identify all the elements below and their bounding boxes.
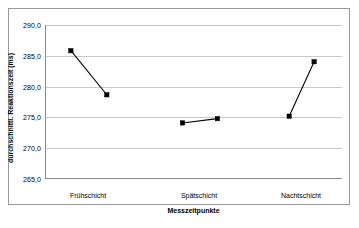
y-axis-tick-label: 290,0	[9, 22, 41, 29]
x-axis-tick-label: Nachtschicht	[281, 192, 321, 199]
y-axis-tick-label: 285,0	[9, 52, 41, 59]
y-axis-tick-label: 275,0	[9, 114, 41, 121]
x-axis-tick-label: Spätschicht	[181, 192, 217, 199]
series-line-segment	[71, 51, 107, 95]
data-point-marker	[287, 114, 291, 118]
data-point-marker	[105, 93, 109, 97]
x-axis-title: Messzeitpunkte	[45, 207, 342, 214]
y-axis-title: durchschnittl. Reaktionszeit (ms)	[7, 0, 19, 23]
data-point-marker	[180, 121, 184, 125]
x-axis-tick-label: Frühschicht	[70, 192, 106, 199]
y-axis-tick-label: 270,0	[9, 145, 41, 152]
y-axis-title-label: durchschnittl. Reaktionszeit (ms)	[7, 23, 14, 193]
y-axis-tick-label: 280,0	[9, 83, 41, 90]
series-line-segment	[183, 119, 218, 123]
y-axis-tick-label: 265,0	[9, 176, 41, 183]
chart-figure: durchschnittl. Reaktionszeit (ms) 290,02…	[8, 8, 350, 205]
data-point-marker	[69, 49, 73, 53]
series-line-segment	[289, 62, 314, 116]
plot-area	[45, 25, 342, 179]
data-point-marker	[215, 116, 219, 120]
series-layer	[46, 25, 342, 178]
data-point-marker	[312, 60, 316, 64]
